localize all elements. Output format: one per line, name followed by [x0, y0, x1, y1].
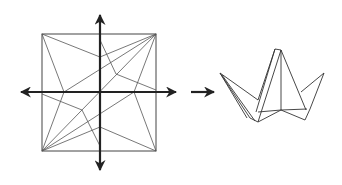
crease-pattern: [21, 15, 176, 170]
origami-diagram: [0, 0, 342, 185]
folded-crane-base: [220, 49, 324, 122]
